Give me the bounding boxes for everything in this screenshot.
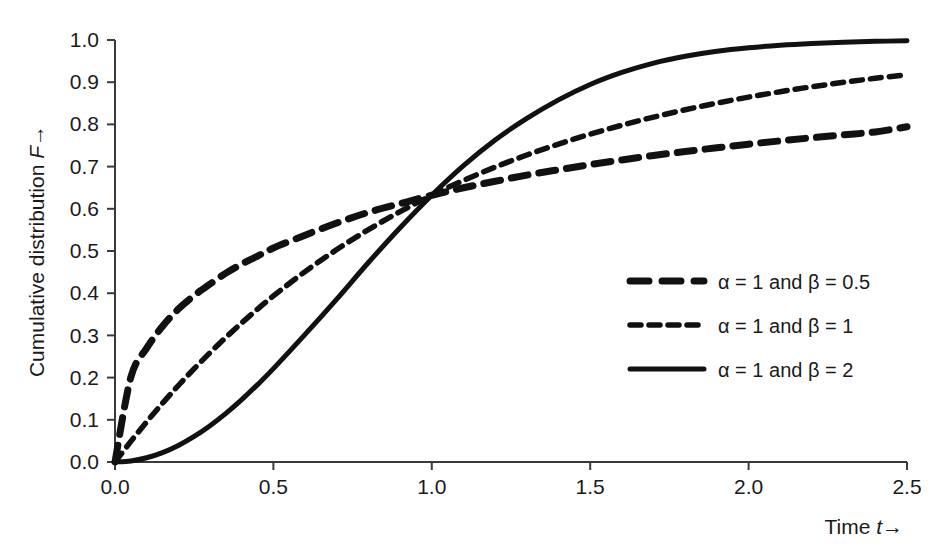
y-tick-labels: 1.0 0.9 0.8 0.7 0.6 0.5 0.4 0.3 0.2 0.1 … xyxy=(70,28,100,473)
x-tick-label: 1.0 xyxy=(417,475,446,498)
x-axis-title: Time t→ xyxy=(824,515,903,538)
legend-label-beta2: α = 1 and β = 2 xyxy=(718,359,853,381)
curve-alpha1-beta05 xyxy=(115,127,907,462)
y-tick-label: 0.9 xyxy=(70,70,99,93)
x-tick-label: 2.0 xyxy=(734,475,763,498)
y-tick-label: 1.0 xyxy=(70,28,99,51)
x-tick-marks xyxy=(115,462,907,470)
x-axis-title-text: Time xyxy=(824,515,876,538)
curve-alpha1-beta2 xyxy=(115,41,907,462)
legend-label-beta05: α = 1 and β = 0.5 xyxy=(718,271,870,293)
x-tick-label: 0.0 xyxy=(100,475,129,498)
y-tick-marks xyxy=(107,40,115,462)
y-tick-label: 0.2 xyxy=(70,366,99,389)
x-tick-labels: 0.0 0.5 1.0 1.5 2.0 2.5 xyxy=(100,475,921,498)
x-tick-label: 0.5 xyxy=(259,475,288,498)
y-axis-title-text: Cumulative distribution xyxy=(25,159,48,377)
y-tick-label: 0.5 xyxy=(70,239,99,262)
y-tick-label: 0.4 xyxy=(70,281,100,304)
y-axis-title-arrow: → xyxy=(25,125,48,146)
y-tick-label: 0.6 xyxy=(70,197,99,220)
x-tick-label: 1.5 xyxy=(576,475,605,498)
legend-label-beta1: α = 1 and β = 1 xyxy=(718,315,853,337)
axes-group xyxy=(115,40,907,462)
y-tick-label: 0.1 xyxy=(70,408,99,431)
y-axis-title: Cumulative distribution F→ xyxy=(25,125,48,377)
y-tick-label: 0.8 xyxy=(70,112,99,135)
x-tick-label: 2.5 xyxy=(892,475,921,498)
y-tick-label: 0.0 xyxy=(70,450,99,473)
x-axis-title-arrow: → xyxy=(882,515,903,538)
legend: α = 1 and β = 0.5 α = 1 and β = 1 α = 1 … xyxy=(630,271,870,381)
y-tick-label: 0.7 xyxy=(70,155,99,178)
weibull-cdf-figure: 1.0 0.9 0.8 0.7 0.6 0.5 0.4 0.3 0.2 0.1 … xyxy=(0,0,946,551)
y-tick-label: 0.3 xyxy=(70,324,99,347)
chart-canvas: 1.0 0.9 0.8 0.7 0.6 0.5 0.4 0.3 0.2 0.1 … xyxy=(0,0,946,551)
data-curves xyxy=(115,41,907,462)
